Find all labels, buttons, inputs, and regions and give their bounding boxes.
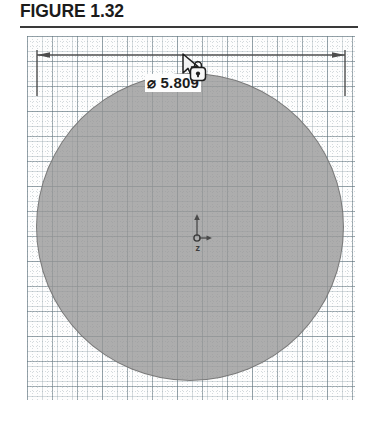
- origin-marker-icon: z: [182, 212, 212, 254]
- svg-text:z: z: [195, 243, 200, 253]
- lock-keyhole-stem: [197, 74, 199, 78]
- cursor-pointer-with-lock-icon: [179, 52, 213, 86]
- cad-drawing-canvas[interactable]: z ⌀ 5.809: [27, 36, 355, 400]
- caption-divider-rule: [20, 26, 358, 28]
- figure-caption: FIGURE 1.32: [20, 1, 124, 22]
